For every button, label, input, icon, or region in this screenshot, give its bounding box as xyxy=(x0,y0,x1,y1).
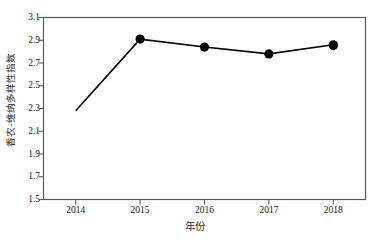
x-tick-label: 2014 xyxy=(54,205,98,216)
x-tick-label: 2017 xyxy=(247,205,291,216)
x-axis-tick-labels: 2014 2015 2016 2017 2018 xyxy=(0,0,390,244)
x-tick-label: 2015 xyxy=(118,205,162,216)
x-axis-title: 年份 xyxy=(0,218,390,233)
chart-figure: 香农-维纳多样性指数 3.1 2.9 2.7 2.5 2.3 2.1 1.9 1… xyxy=(0,0,390,244)
x-tick-label: 2016 xyxy=(183,205,227,216)
x-tick-label: 2018 xyxy=(311,205,355,216)
